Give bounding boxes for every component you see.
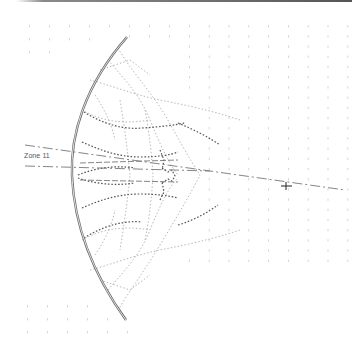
dot-grid-right <box>129 25 348 262</box>
zone-label: Zone 11 <box>24 152 50 159</box>
curved-reflector <box>72 37 127 320</box>
reflector-ray-diagram <box>0 0 352 351</box>
cross-marker-icon <box>281 182 292 190</box>
dot-grid <box>27 25 128 333</box>
ray-paths <box>78 48 240 310</box>
